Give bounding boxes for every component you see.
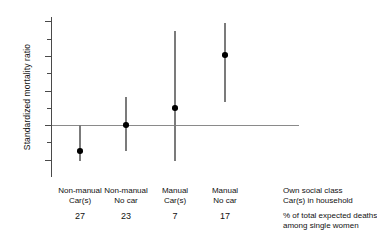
y-tick-major xyxy=(45,91,52,92)
y-tick-major xyxy=(45,56,52,57)
data-point-marker xyxy=(123,122,129,128)
y-tick-minor xyxy=(47,39,52,40)
y-axis-title: Standardized mortality ratio xyxy=(22,22,32,172)
y-axis-line xyxy=(51,17,52,177)
y-tick-major xyxy=(45,125,52,126)
note-line-2: among single women xyxy=(283,221,377,231)
row-header-line-1: Own social class xyxy=(283,186,353,196)
row-header-line-2: Car(s) in household xyxy=(283,196,353,206)
data-point-marker xyxy=(222,52,228,58)
data-point-marker xyxy=(172,105,178,111)
confidence-interval-bar xyxy=(224,23,225,102)
expected-deaths-percent: 27 xyxy=(60,211,100,221)
data-point-marker xyxy=(77,148,83,154)
y-tick-minor xyxy=(47,73,52,74)
note-line-1: % of total expected deaths xyxy=(283,211,377,221)
expected-deaths-percent: 7 xyxy=(155,211,195,221)
expected-deaths-percent: 17 xyxy=(205,211,245,221)
y-tick-minor xyxy=(47,108,52,109)
confidence-interval-bar xyxy=(174,31,175,161)
row-header-labels: Own social class Car(s) in household xyxy=(283,186,353,205)
y-tick-minor xyxy=(47,142,52,143)
category-label-line-1: Manual xyxy=(193,186,257,196)
plot-area: 60100140180220 xyxy=(51,12,351,182)
expected-deaths-percent: 23 xyxy=(106,211,146,221)
expected-deaths-note: % of total expected deaths among single … xyxy=(283,211,377,230)
category-label-line-2: No car xyxy=(193,196,257,206)
confidence-interval-bar xyxy=(79,125,80,160)
y-tick-major xyxy=(45,160,52,161)
y-tick-major xyxy=(45,21,52,22)
category-label: ManualNo car xyxy=(193,186,257,205)
